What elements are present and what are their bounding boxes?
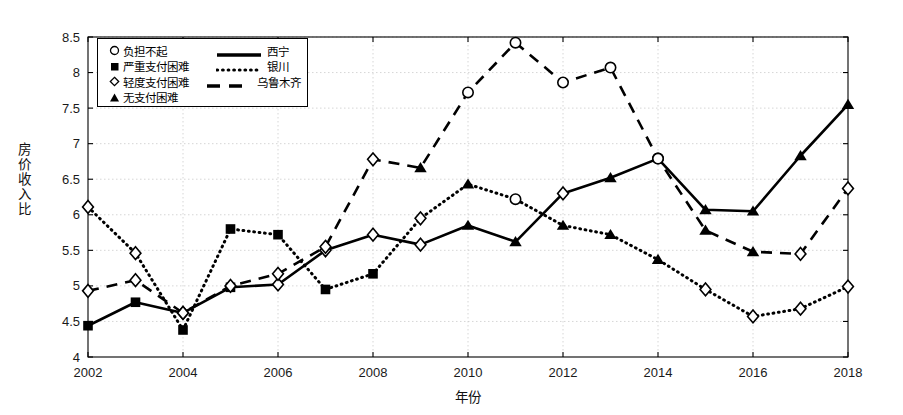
x-tick-label: 2002 xyxy=(74,365,103,380)
data-point-diamond-open xyxy=(795,302,806,315)
legend-series-label: 西宁 xyxy=(267,43,289,59)
y-tick-label: 4.5 xyxy=(62,314,80,329)
data-point-circle-open xyxy=(463,87,473,97)
chart-figure: 44.555.566.577.588.520022004200620082010… xyxy=(0,0,903,415)
data-point-diamond-open xyxy=(178,307,189,320)
data-point-diamond-open xyxy=(748,310,759,323)
x-tick-label: 2006 xyxy=(264,365,293,380)
data-point-circle-open xyxy=(510,194,520,204)
solid-line-sample xyxy=(216,46,262,56)
diamond-open-icon xyxy=(106,76,123,87)
data-point-diamond-open xyxy=(415,238,426,251)
data-point-circle-open xyxy=(653,153,663,163)
chart-legend: 负担不起 西宁 严重支付困难 银川 xyxy=(97,38,308,107)
data-point-square-filled xyxy=(83,321,93,331)
triangle-filled-icon xyxy=(106,92,123,103)
legend-marker-label: 严重支付困难 xyxy=(123,58,189,74)
data-point-square-filled xyxy=(321,285,331,295)
x-tick-label: 2004 xyxy=(169,365,198,380)
legend-row: 负担不起 西宁 xyxy=(106,43,301,59)
legend-row: 严重支付困难 银川 xyxy=(106,59,301,75)
x-tick-label: 2012 xyxy=(549,365,578,380)
legend-row: 无支付困难 xyxy=(106,90,301,106)
data-point-triangle-filled xyxy=(842,99,854,109)
legend-series-label: 银川 xyxy=(267,58,289,74)
x-tick-label: 2016 xyxy=(739,365,768,380)
data-point-diamond-open xyxy=(368,228,379,241)
y-tick-label: 8.5 xyxy=(62,30,80,45)
data-point-square-filled xyxy=(178,325,188,335)
legend-row: 轻度支付困难 乌鲁木齐 xyxy=(106,74,301,90)
y-tick-label: 6.5 xyxy=(62,172,80,187)
x-tick-label: 2010 xyxy=(454,365,483,380)
y-tick-label: 8 xyxy=(73,65,80,80)
y-tick-label: 7.5 xyxy=(62,101,80,116)
data-point-square-filled xyxy=(226,224,236,234)
data-point-square-filled xyxy=(131,297,141,307)
data-point-circle-open xyxy=(510,37,520,47)
square-filled-icon xyxy=(106,61,123,72)
x-axis-title: 年份 xyxy=(455,389,482,405)
data-point-diamond-open xyxy=(273,267,284,280)
legend-marker-label: 轻度支付困难 xyxy=(123,74,189,90)
data-point-diamond-open xyxy=(843,280,854,293)
data-point-triangle-filled xyxy=(462,220,474,230)
y-tick-label: 5.5 xyxy=(62,243,80,258)
y-tick-label: 6 xyxy=(73,207,80,222)
y-tick-label: 7 xyxy=(73,136,80,151)
data-point-triangle-filled xyxy=(462,178,474,188)
data-point-diamond-open xyxy=(368,153,379,166)
data-point-diamond-open xyxy=(700,283,711,296)
x-tick-label: 2018 xyxy=(834,365,863,380)
y-axis-title: 房价收入比 xyxy=(16,142,34,217)
legend-series-label: 乌鲁木齐 xyxy=(257,74,301,90)
y-tick-label: 5 xyxy=(73,278,80,293)
data-point-circle-open xyxy=(558,77,568,87)
x-tick-label: 2008 xyxy=(359,365,388,380)
data-point-square-filled xyxy=(368,269,378,279)
data-point-square-filled xyxy=(273,230,283,240)
legend-marker-label: 负担不起 xyxy=(123,43,167,59)
data-point-diamond-open xyxy=(415,212,426,225)
y-tick-label: 4 xyxy=(73,350,80,365)
dotted-line-sample xyxy=(216,61,262,71)
legend-marker-label: 无支付困难 xyxy=(123,89,178,105)
dashed-line-sample xyxy=(206,77,252,87)
data-point-circle-open xyxy=(605,62,615,72)
data-point-diamond-open xyxy=(130,274,141,287)
circle-open-icon xyxy=(106,45,123,56)
x-tick-label: 2014 xyxy=(644,365,673,380)
